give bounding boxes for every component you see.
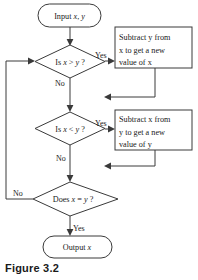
input-terminal-label: Input x, y (54, 12, 85, 21)
edge-label-equal-no: No (13, 189, 23, 198)
connector-input-to-decision-greater (67, 27, 74, 46)
edge-label-less-yes: Yes (95, 119, 107, 128)
node-decision-does-x-equal-y[interactable]: Does x = y ? (33, 182, 118, 216)
node-process-subtract-x-from-y[interactable]: Subtract x from y to get a new value of … (115, 110, 192, 150)
edge-label-less-no: No (56, 154, 66, 163)
connector-greater-no-to-decision-less (67, 78, 74, 112)
edge-label-greater-yes: Yes (95, 51, 107, 60)
node-process-subtract-y-from-x[interactable]: Subtract y from x to get a new value of … (115, 27, 192, 68)
node-decision-is-x-less-than-y[interactable]: Is x < y ? (35, 112, 105, 145)
connector-process-y-return (104, 68, 155, 100)
process-subtract-x-line1: Subtract x from (119, 115, 171, 124)
process-subtract-y-line1: Subtract y from (119, 33, 171, 42)
decision-less-label: Is x < y ? (55, 125, 85, 134)
decision-equal-label: Does x = y ? (53, 195, 94, 204)
node-decision-is-x-greater-than-y[interactable]: Is x > y ? (35, 45, 105, 78)
node-input-terminal[interactable]: Input x, y (38, 4, 101, 27)
process-subtract-y-line2: x to get a new (119, 46, 165, 55)
process-subtract-x-line2: y to get a new (119, 128, 165, 137)
output-terminal-label: Output x (63, 243, 92, 252)
process-subtract-y-line3: value of x (119, 58, 152, 67)
connector-process-x-return (104, 150, 155, 169)
node-output-terminal[interactable]: Output x (43, 236, 112, 258)
edge-label-greater-no: No (55, 79, 65, 88)
process-subtract-x-line3: value of y (119, 140, 153, 149)
edge-label-equal-yes: Yes (73, 224, 85, 233)
figure-container: Input x, y Is x > y ? Subtract y from x … (0, 0, 198, 280)
decision-greater-label: Is x > y ? (55, 58, 85, 67)
figure-caption: Figure 3.2 (5, 262, 59, 274)
connector-less-no-to-decision-equal (67, 145, 74, 182)
connector-equal-no-feedback-loop (6, 58, 35, 199)
flowchart-diagram: Input x, y Is x > y ? Subtract y from x … (0, 0, 198, 280)
